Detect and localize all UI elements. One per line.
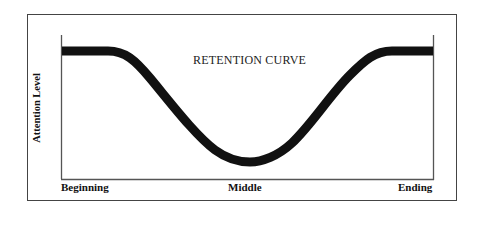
chart-title: RETENTION CURVE xyxy=(193,53,306,68)
x-tick-beginning: Beginning xyxy=(61,181,109,193)
y-axis-label: Attention Level xyxy=(31,73,42,143)
x-tick-middle: Middle xyxy=(228,181,262,193)
x-tick-ending: Ending xyxy=(398,181,432,193)
